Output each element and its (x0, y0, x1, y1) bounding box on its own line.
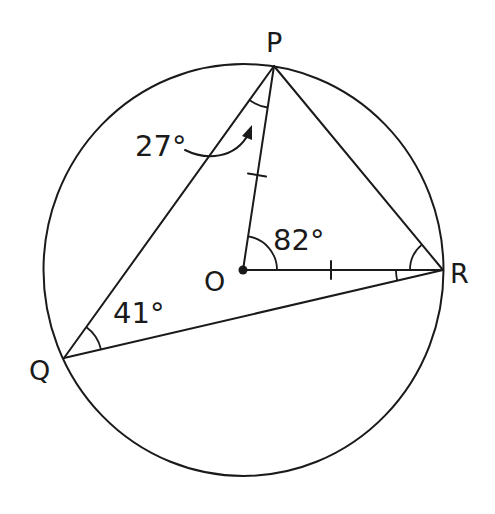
centre-dot (239, 266, 248, 275)
arrowhead-icon (242, 125, 252, 140)
angle-label-41: 41° (113, 296, 164, 330)
point-label-r: R (450, 258, 469, 289)
angle-label-82: 82° (273, 223, 324, 257)
angle-label-27: 27° (135, 129, 186, 163)
angle-arc-r-orp (410, 245, 422, 270)
segment-pq (64, 66, 274, 358)
circle-theorem-diagram: P Q R O 27° 82° 41° (0, 0, 495, 514)
point-label-o: O (204, 266, 225, 297)
angle-arc-r-orq (396, 270, 397, 281)
angle-arc-p (250, 100, 268, 107)
angle-arc-q (86, 327, 101, 349)
point-label-q: Q (29, 355, 50, 386)
point-label-p: P (266, 27, 282, 58)
